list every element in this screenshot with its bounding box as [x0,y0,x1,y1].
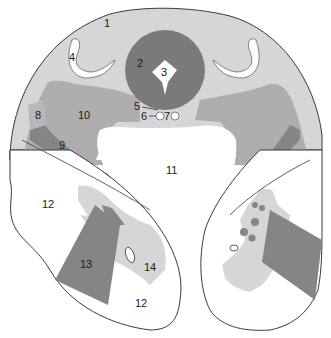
spot [252,202,258,208]
vessel-6 [156,112,164,120]
spot [240,228,248,236]
label-12-lower: 12 [135,297,147,309]
spot [249,235,256,242]
label-14: 14 [144,261,156,273]
label-1: 1 [104,17,110,29]
label-6: 6 [141,110,147,122]
label-9: 9 [59,139,65,151]
label-5: 5 [134,100,140,112]
label-4: 4 [69,51,75,63]
vessel-7 [171,112,179,120]
label-8: 8 [35,109,41,121]
anatomy-diagram: 1 2 3 4 5 6 7 8 9 10 11 12 13 14 12 [0,0,331,338]
small-vessel-right [230,245,238,251]
label-11: 11 [166,164,177,176]
label-12-upper: 12 [42,198,54,210]
label-10: 10 [78,109,90,121]
spot [251,218,259,226]
spot [259,205,265,211]
label-2: 2 [137,57,143,69]
label-13: 13 [80,258,92,270]
label-7: 7 [164,110,170,122]
label-3: 3 [161,66,167,78]
